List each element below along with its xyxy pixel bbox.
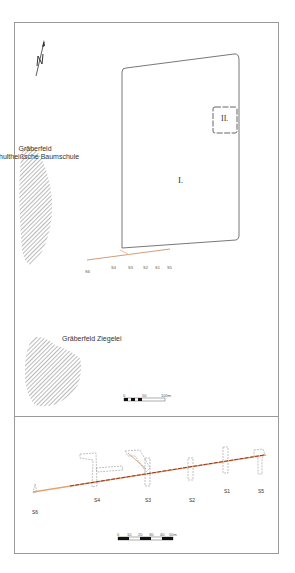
section-label-s4: S4 (94, 496, 100, 504)
section-label-s3: S3 (145, 496, 151, 504)
section-label-s2: S2 (189, 496, 195, 504)
scale-bottom-tick-50: 50m (169, 531, 177, 539)
enclosure-1-label: I. (178, 176, 183, 184)
cemetery-2-label: Gräberfeld Ziegelei (62, 335, 122, 343)
section-label-top-s4: S4 (111, 264, 116, 272)
scale-bottom-tick-40: 40 (160, 531, 164, 539)
cemetery-2-hatch (25, 337, 81, 406)
scale-bottom-tick-20: 20 (138, 531, 142, 539)
scale-bottom-tick-10: 10 (127, 531, 131, 539)
section-label-top-s6: S6 (85, 268, 90, 276)
cemetery-1-label-line1: Gräberfeld (18, 145, 51, 153)
scale-bottom-tick-0: 0 (117, 531, 119, 539)
enclosure-2-label: II. (221, 115, 228, 123)
section-label-top-s3: S3 (128, 264, 133, 272)
enclosure-1-outline (122, 54, 239, 248)
cemetery-1-hatch (19, 146, 52, 265)
section-label-s6: S6 (32, 508, 38, 516)
scale-bottom-tick-30: 30 (149, 531, 153, 539)
section-label-top-s2: S2 (143, 264, 148, 272)
section-label-s1: S1 (224, 487, 230, 495)
scale-top-tick-100: 100m (161, 392, 171, 400)
section-label-s5: S5 (258, 487, 264, 495)
cemetery-1-label-line2: Schultheißsche Baumschule (0, 153, 79, 161)
map-graphics (0, 0, 295, 573)
section-label-top-s5: S5 (167, 264, 172, 272)
scale-top-tick-50: 50 (142, 392, 146, 400)
north-arrow-icon (36, 40, 45, 76)
scale-top-tick-0: 0 (123, 392, 125, 400)
section-label-top-s1: S1 (155, 264, 160, 272)
